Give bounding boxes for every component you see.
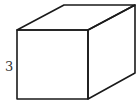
edge-length-label: 3 [5,59,13,74]
cube [17,5,135,99]
cube-right-face [88,5,135,99]
cube-front-face [17,30,88,99]
cube-top-face [17,5,135,30]
cube-diagram: 3 [0,0,138,105]
